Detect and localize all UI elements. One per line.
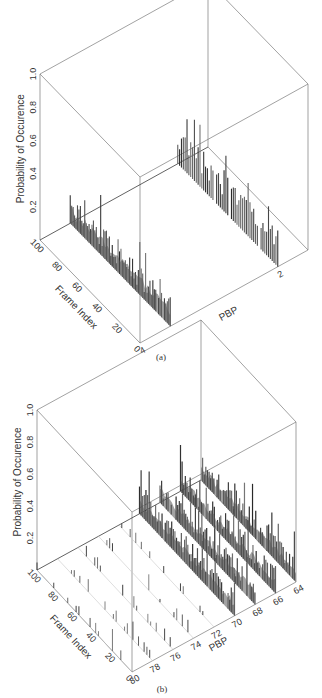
- x-axis-label: PBP: [217, 304, 240, 323]
- x-tick-label: 70: [230, 616, 244, 630]
- z-tick-label: 1.0: [28, 68, 38, 81]
- z-tick-label: 0.6: [28, 134, 38, 147]
- z-tick-label: 0.4: [25, 500, 35, 513]
- y-tick-label: 100: [25, 567, 43, 585]
- box-edge: [208, 0, 308, 84]
- z-tick-label: 0.6: [25, 468, 35, 481]
- y-tick-label: 20: [110, 321, 124, 335]
- figure-caption: (a): [156, 352, 166, 362]
- x-tick-label: 78: [148, 661, 162, 675]
- y-tick-label: 20: [103, 650, 117, 664]
- figure-caption: (b): [157, 684, 168, 694]
- box-edge: [40, 0, 208, 74]
- bars: [70, 119, 278, 326]
- box-edge: [40, 74, 140, 177]
- chart-panel-a: 0.20.40.60.81.0Probability of Occurence0…: [15, 0, 308, 362]
- box-edge: [37, 410, 132, 512]
- x-tick-label: 76: [169, 650, 183, 664]
- x-tick-label: 64: [292, 583, 306, 597]
- x-tick-label: 74: [189, 639, 203, 653]
- x-axis-line: [140, 250, 308, 343]
- box-edge: [208, 147, 308, 250]
- z-tick-label: 0.4: [28, 167, 38, 180]
- z-tick-label: 1.0: [25, 404, 35, 417]
- x-tick-label: 68: [251, 605, 265, 619]
- z-tick-label: 0.2: [28, 201, 38, 214]
- y-tick-label: 40: [90, 301, 104, 315]
- x-tick-label: 66: [271, 594, 285, 608]
- y-tick-label: 60: [70, 280, 84, 294]
- z-tick-label: 0.8: [25, 436, 35, 449]
- z-tick-label: 0.8: [28, 101, 38, 114]
- z-tick-label: 0.2: [25, 532, 35, 545]
- y-tick-label: 80: [46, 589, 60, 603]
- figure: 0.20.40.60.81.0Probability of Occurence0…: [0, 0, 322, 698]
- y-tick-label: 100: [28, 237, 46, 255]
- chart-panel-b: 0.20.40.60.81.0Probability of Occurence0…: [12, 320, 305, 694]
- box-edge: [132, 422, 296, 512]
- z-axis-label: Probability of Occurence: [15, 94, 26, 203]
- y-tick-label: 60: [65, 610, 79, 624]
- y-tick-label: 40: [84, 630, 98, 644]
- x-axis-label: PBP: [207, 634, 230, 653]
- y-tick-label: 80: [50, 259, 64, 273]
- box-edge: [201, 320, 296, 422]
- x-tick-label: 2: [276, 269, 285, 280]
- z-axis-label: Probability of Occurence: [12, 427, 23, 536]
